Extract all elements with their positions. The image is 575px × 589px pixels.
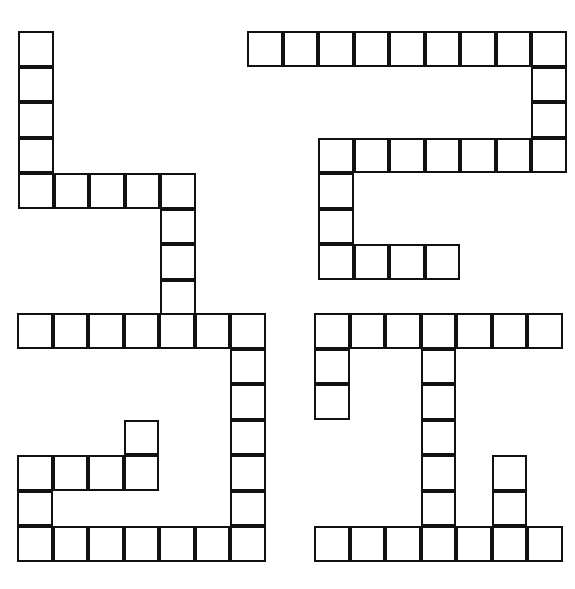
polyomino-cell bbox=[421, 313, 457, 349]
polyomino-cell bbox=[492, 526, 528, 562]
polyomino-cell bbox=[195, 313, 231, 349]
polyomino-cell bbox=[53, 526, 89, 562]
polyomino-cell bbox=[230, 491, 266, 527]
polyomino-cell bbox=[318, 209, 354, 245]
polyomino-cell bbox=[124, 420, 160, 456]
polyomino-cell bbox=[354, 31, 390, 67]
polyomino-cell bbox=[314, 384, 350, 420]
top-left-piece bbox=[18, 31, 196, 315]
polyomino-cell bbox=[159, 313, 195, 349]
polyomino-cell bbox=[53, 455, 89, 491]
polyomino-cell bbox=[354, 244, 390, 280]
polyomino-cell bbox=[160, 244, 196, 280]
polyomino-cell bbox=[160, 173, 196, 209]
top-right-piece bbox=[247, 31, 567, 280]
polyomino-cell bbox=[527, 526, 563, 562]
polyomino-cell bbox=[124, 313, 160, 349]
puzzle-canvas bbox=[0, 0, 575, 589]
polyomino-cell bbox=[18, 31, 54, 67]
polyomino-cell bbox=[421, 349, 457, 385]
polyomino-cell bbox=[247, 31, 283, 67]
polyomino-cell bbox=[531, 67, 567, 103]
polyomino-cell bbox=[283, 31, 319, 67]
polyomino-cell bbox=[421, 384, 457, 420]
polyomino-cell bbox=[496, 31, 532, 67]
polyomino-cell bbox=[421, 526, 457, 562]
polyomino-cell bbox=[460, 138, 496, 174]
polyomino-cell bbox=[496, 138, 532, 174]
polyomino-cell bbox=[350, 313, 386, 349]
polyomino-cell bbox=[88, 313, 124, 349]
polyomino-cell bbox=[160, 209, 196, 245]
polyomino-cell bbox=[88, 526, 124, 562]
polyomino-cell bbox=[421, 455, 457, 491]
polyomino-cell bbox=[385, 313, 421, 349]
polyomino-cell bbox=[531, 102, 567, 138]
polyomino-cell bbox=[125, 173, 161, 209]
polyomino-cell bbox=[18, 67, 54, 103]
polyomino-cell bbox=[53, 313, 89, 349]
polyomino-cell bbox=[230, 384, 266, 420]
polyomino-cell bbox=[124, 455, 160, 491]
polyomino-cell bbox=[350, 526, 386, 562]
polyomino-cell bbox=[159, 526, 195, 562]
polyomino-cell bbox=[18, 102, 54, 138]
polyomino-cell bbox=[124, 526, 160, 562]
polyomino-cell bbox=[354, 138, 390, 174]
polyomino-cell bbox=[230, 526, 266, 562]
polyomino-cell bbox=[230, 420, 266, 456]
polyomino-cell bbox=[230, 455, 266, 491]
polyomino-cell bbox=[17, 491, 53, 527]
polyomino-cell bbox=[318, 138, 354, 174]
polyomino-cell bbox=[421, 491, 457, 527]
polyomino-cell bbox=[492, 455, 528, 491]
polyomino-cell bbox=[17, 313, 53, 349]
polyomino-cell bbox=[230, 313, 266, 349]
polyomino-cell bbox=[18, 138, 54, 174]
polyomino-cell bbox=[314, 313, 350, 349]
bottom-left-piece bbox=[17, 313, 266, 562]
polyomino-cell bbox=[88, 455, 124, 491]
polyomino-cell bbox=[492, 491, 528, 527]
polyomino-cell bbox=[230, 349, 266, 385]
polyomino-cell bbox=[314, 526, 350, 562]
polyomino-cell bbox=[527, 313, 563, 349]
polyomino-cell bbox=[318, 31, 354, 67]
polyomino-cell bbox=[425, 31, 461, 67]
polyomino-cell bbox=[421, 420, 457, 456]
polyomino-cell bbox=[89, 173, 125, 209]
polyomino-cell bbox=[18, 173, 54, 209]
polyomino-cell bbox=[531, 138, 567, 174]
polyomino-cell bbox=[17, 526, 53, 562]
polyomino-cell bbox=[195, 526, 231, 562]
polyomino-cell bbox=[389, 31, 425, 67]
bottom-right-piece bbox=[314, 313, 563, 562]
polyomino-cell bbox=[531, 31, 567, 67]
polyomino-cell bbox=[314, 349, 350, 385]
polyomino-cell bbox=[318, 244, 354, 280]
polyomino-cell bbox=[318, 173, 354, 209]
polyomino-cell bbox=[389, 138, 425, 174]
polyomino-cell bbox=[492, 313, 528, 349]
polyomino-cell bbox=[389, 244, 425, 280]
polyomino-cell bbox=[460, 31, 496, 67]
polyomino-cell bbox=[456, 526, 492, 562]
polyomino-cell bbox=[385, 526, 421, 562]
polyomino-cell bbox=[54, 173, 90, 209]
polyomino-cell bbox=[160, 280, 196, 316]
polyomino-cell bbox=[425, 138, 461, 174]
polyomino-cell bbox=[425, 244, 461, 280]
polyomino-cell bbox=[456, 313, 492, 349]
polyomino-cell bbox=[17, 455, 53, 491]
